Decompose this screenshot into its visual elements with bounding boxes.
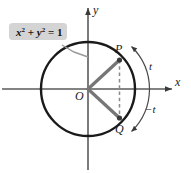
y-axis-label: y bbox=[92, 3, 99, 17]
origin-label: O bbox=[75, 89, 84, 103]
arc-t-label: t bbox=[149, 60, 153, 72]
point-q-label: Q bbox=[115, 122, 124, 136]
y-axis-arrowhead bbox=[85, 8, 91, 15]
point-p-label: P bbox=[114, 42, 123, 56]
point-p-marker bbox=[117, 57, 122, 62]
x-axis-arrowhead bbox=[165, 86, 172, 92]
x-axis-label: x bbox=[174, 75, 181, 89]
equation-equals-one: = 1 bbox=[45, 26, 62, 38]
radius-op bbox=[88, 60, 120, 89]
arc-negative-t-label: −t bbox=[145, 103, 156, 115]
callout-leader-line bbox=[62, 45, 88, 57]
point-q-marker bbox=[117, 115, 122, 120]
unit-circle-figure: x2 + y2 = 1 y x O P Q t −t bbox=[0, 0, 191, 173]
equation-plus: + bbox=[25, 26, 37, 38]
radius-oq bbox=[88, 89, 120, 118]
